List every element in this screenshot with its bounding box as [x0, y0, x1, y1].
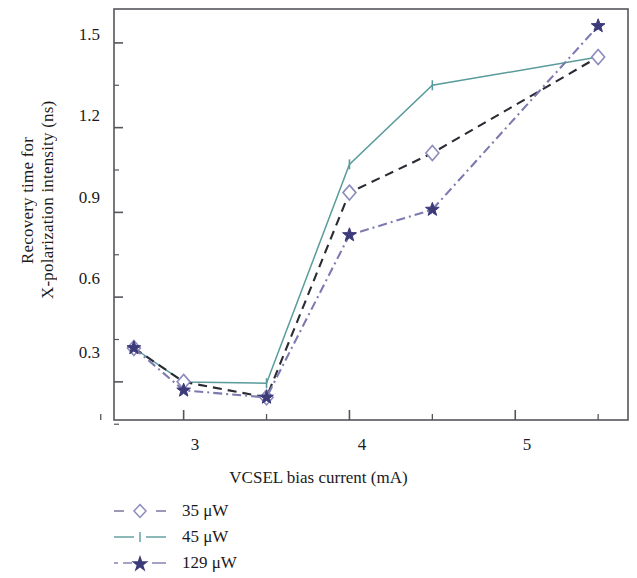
- data-point-star: [343, 228, 357, 241]
- data-point-diamond: [426, 146, 439, 161]
- x-tick-label-3: 3: [175, 436, 215, 453]
- x-tick-label-4: 4: [342, 436, 382, 453]
- series-35-w: [127, 50, 604, 405]
- x-tick-label-5: 5: [507, 436, 547, 453]
- legend-key-35uw: [112, 501, 168, 521]
- figure-recovery-time-vs-bias-current: Recovery time for X-polarization intensi…: [0, 0, 637, 578]
- data-point-star: [591, 19, 605, 32]
- legend-label-45uw: 45 μW: [168, 527, 228, 547]
- x-axis-title: VCSEL bias current (mA): [0, 468, 637, 488]
- data-point-diamond: [592, 50, 605, 65]
- legend-label-35uw: 35 μW: [168, 501, 228, 521]
- legend-key-129uw: [112, 553, 168, 573]
- legend-item-129uw[interactable]: 129 μW: [112, 550, 237, 576]
- series-line: [134, 26, 598, 398]
- series-45-w: [134, 52, 598, 388]
- legend-label-129uw: 129 μW: [168, 553, 237, 573]
- plot-area: [0, 0, 637, 430]
- axes-frame: [114, 9, 628, 420]
- legend-item-45uw[interactable]: 45 μW: [112, 524, 237, 550]
- legend-item-35uw[interactable]: 35 μW: [112, 498, 237, 524]
- series-line: [134, 57, 598, 397]
- legend-key-45uw: [112, 527, 168, 547]
- series-129-w: [127, 19, 605, 403]
- legend: 35 μW 45 μW 129 μW: [112, 498, 237, 576]
- series-line: [134, 57, 598, 383]
- data-point-diamond: [343, 185, 356, 200]
